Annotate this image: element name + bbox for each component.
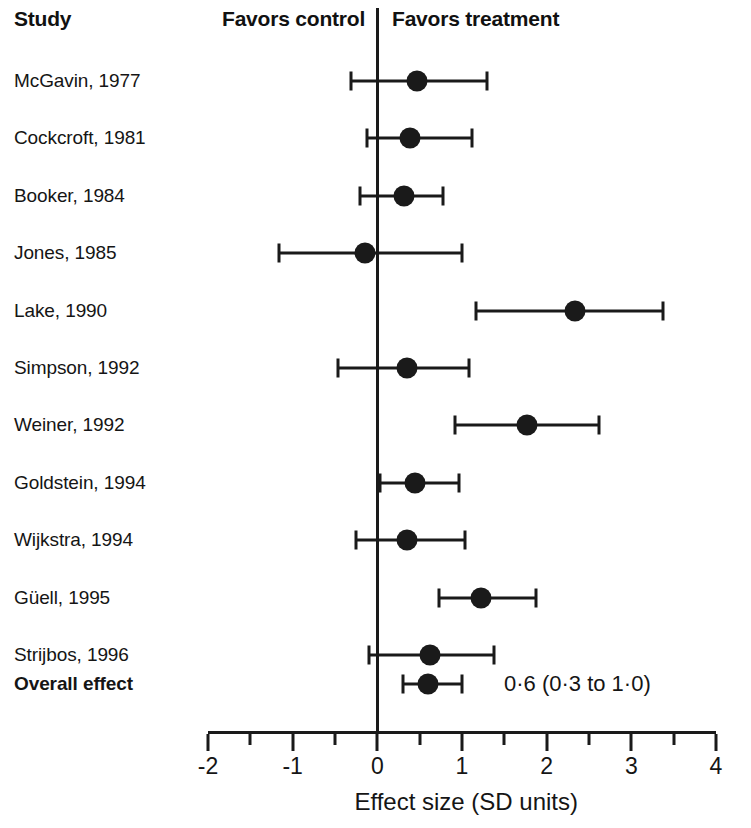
effect-size-marker — [418, 674, 439, 695]
study-label: Jones, 1985 — [14, 242, 116, 264]
study-label: Lake, 1990 — [14, 300, 107, 322]
effect-size-marker — [517, 415, 538, 436]
x-tick-label: 3 — [625, 753, 638, 780]
ci-cap-lower — [278, 244, 281, 263]
x-tick-label: 1 — [456, 753, 469, 780]
ci-cap-lower — [378, 473, 381, 492]
x-tick-label: 0 — [371, 753, 384, 780]
study-label: Wijkstra, 1994 — [14, 529, 133, 551]
x-tick-label: 2 — [540, 753, 553, 780]
x-tick-minor — [672, 734, 675, 745]
ci-cap-upper — [486, 72, 489, 91]
x-tick-major — [291, 734, 294, 751]
x-tick-minor — [334, 734, 337, 745]
effect-size-marker — [405, 472, 426, 493]
x-tick-major — [715, 734, 718, 751]
x-tick-minor — [503, 734, 506, 745]
study-label: Simpson, 1992 — [14, 357, 139, 379]
ci-cap-upper — [534, 588, 537, 607]
ci-cap-lower — [454, 416, 457, 435]
ci-cap-upper — [458, 473, 461, 492]
ci-cap-upper — [493, 646, 496, 665]
column-header-favors-control: Favors control — [222, 7, 365, 31]
study-label: Overall effect — [14, 673, 133, 695]
study-label: Cockcroft, 1981 — [14, 127, 146, 149]
x-tick-minor — [249, 734, 252, 745]
effect-size-marker — [565, 300, 586, 321]
effect-size-marker — [355, 243, 376, 264]
ci-cap-lower — [350, 72, 353, 91]
study-label: Weiner, 1992 — [14, 414, 124, 436]
ci-cap-lower — [438, 588, 441, 607]
forest-plot: Study Favors control Favors treatment Mc… — [0, 0, 751, 828]
effect-size-marker — [394, 185, 415, 206]
effect-size-marker — [419, 645, 440, 666]
ci-cap-lower — [475, 301, 478, 320]
effect-size-marker — [396, 530, 417, 551]
zero-reference-line — [376, 8, 379, 731]
ci-cap-upper — [467, 359, 470, 378]
ci-cap-lower — [366, 129, 369, 148]
overall-effect-annotation: 0·6 (0·3 to 1·0) — [504, 671, 651, 697]
x-tick-label: -1 — [282, 753, 302, 780]
study-label: McGavin, 1977 — [14, 70, 141, 92]
x-axis-title: Effect size (SD units) — [354, 788, 578, 816]
x-tick-major — [376, 734, 379, 751]
column-header-study: Study — [14, 7, 71, 31]
study-label: Güell, 1995 — [14, 587, 110, 609]
ci-cap-upper — [464, 531, 467, 550]
x-tick-minor — [588, 734, 591, 745]
ci-cap-upper — [598, 416, 601, 435]
x-tick-major — [630, 734, 633, 751]
ci-cap-lower — [401, 675, 404, 694]
study-label: Booker, 1984 — [14, 185, 125, 207]
effect-size-marker — [407, 71, 428, 92]
ci-cap-lower — [358, 186, 361, 205]
ci-cap-upper — [442, 186, 445, 205]
ci-cap-lower — [367, 646, 370, 665]
ci-cap-lower — [355, 531, 358, 550]
x-tick-major — [461, 734, 464, 751]
x-tick-major — [545, 734, 548, 751]
column-header-favors-treatment: Favors treatment — [392, 7, 559, 31]
effect-size-marker — [470, 587, 491, 608]
x-tick-major — [207, 734, 210, 751]
ci-cap-upper — [661, 301, 664, 320]
effect-size-marker — [396, 358, 417, 379]
ci-cap-lower — [336, 359, 339, 378]
x-tick-label: -2 — [198, 753, 218, 780]
effect-size-marker — [399, 128, 420, 149]
ci-cap-upper — [461, 675, 464, 694]
study-label: Strijbos, 1996 — [14, 644, 129, 666]
ci-cap-upper — [471, 129, 474, 148]
x-tick-minor — [418, 734, 421, 745]
ci-cap-upper — [461, 244, 464, 263]
study-label: Goldstein, 1994 — [14, 472, 146, 494]
x-tick-label: 4 — [710, 753, 723, 780]
